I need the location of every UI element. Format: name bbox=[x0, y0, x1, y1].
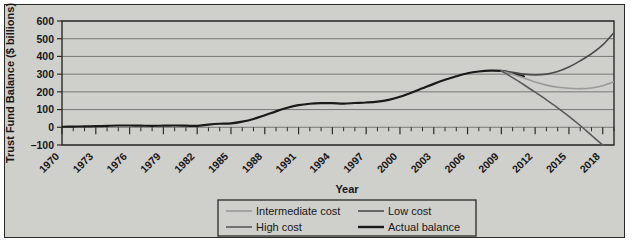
legend-label-actual-balance: Actual balance bbox=[388, 221, 460, 233]
x-tick-label: 2009 bbox=[476, 150, 501, 175]
y-tick-label: 600 bbox=[36, 15, 54, 27]
x-tick-label: 2006 bbox=[442, 150, 467, 175]
y-tick-label: 200 bbox=[36, 86, 54, 98]
x-tick-label: 1973 bbox=[70, 150, 95, 175]
x-tick-label: 1988 bbox=[239, 150, 264, 175]
figure-container: 6005004003002001000–10019701973197619791… bbox=[0, 0, 633, 249]
y-tick-label: 400 bbox=[36, 50, 54, 62]
legend-label-intermediate-cost: Intermediate cost bbox=[256, 205, 340, 217]
series-line-actual-balance bbox=[62, 71, 524, 127]
y-axis-title: Trust Fund Balance ($ billions) bbox=[4, 3, 16, 163]
x-tick-label: 1991 bbox=[273, 150, 298, 175]
x-tick-label: 1994 bbox=[307, 150, 332, 175]
x-tick-label: 2012 bbox=[510, 150, 535, 175]
x-tick-label: 2015 bbox=[543, 150, 568, 175]
x-tick-label: 1997 bbox=[341, 150, 366, 175]
legend-label-high-cost: High cost bbox=[256, 221, 302, 233]
y-axis-group: 6005004003002001000–100 bbox=[31, 15, 62, 151]
x-tick-label: 2003 bbox=[408, 150, 433, 175]
x-tick-label: 2000 bbox=[374, 150, 399, 175]
x-axis-title: Year bbox=[335, 183, 359, 195]
x-axis-group: 1970197319761979198219851988199119941997… bbox=[36, 127, 614, 175]
x-tick-label: 1970 bbox=[36, 150, 61, 175]
y-tick-label: –100 bbox=[31, 139, 55, 151]
y-tick-label: 500 bbox=[36, 33, 54, 45]
trust-fund-balance-chart: 6005004003002001000–10019701973197619791… bbox=[0, 0, 633, 249]
y-tick-label: 100 bbox=[36, 103, 54, 115]
x-tick-label: 1982 bbox=[172, 150, 197, 175]
x-tick-label: 1976 bbox=[104, 150, 129, 175]
y-tick-label: 300 bbox=[36, 68, 54, 80]
x-tick-label: 1985 bbox=[205, 150, 230, 175]
legend: Intermediate costLow costHigh costActual… bbox=[218, 200, 476, 236]
x-tick-label: 1979 bbox=[138, 150, 163, 175]
legend-label-low-cost: Low cost bbox=[388, 205, 431, 217]
x-tick-label: 2018 bbox=[577, 150, 602, 175]
series-group bbox=[62, 33, 614, 153]
series-line-high-cost bbox=[501, 71, 614, 153]
y-tick-label: 0 bbox=[48, 121, 54, 133]
